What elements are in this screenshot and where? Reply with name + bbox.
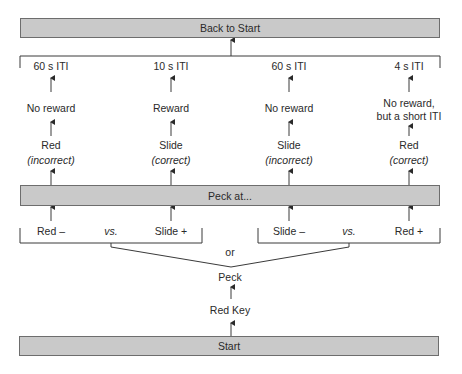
pair-2-vs: vs.	[342, 224, 355, 238]
start-label: Start	[218, 340, 240, 352]
column-2-outcome: Reward	[153, 101, 189, 115]
column-1-outcome: No reward	[27, 101, 75, 115]
or-label: or	[225, 245, 234, 259]
column-4-outcome: No reward,	[383, 96, 434, 110]
column-2-choice: Slide	[159, 138, 182, 152]
column-2-correctness: (correct)	[151, 153, 190, 167]
column-3-choice: Slide	[277, 138, 300, 152]
column-1-choice: Red	[41, 138, 60, 152]
column-3-iti: 60 s ITI	[271, 59, 306, 73]
column-3-outcome: No reward	[265, 101, 313, 115]
column-4-iti: 4 s ITI	[394, 59, 423, 73]
pair-2-right: Red +	[395, 224, 423, 238]
back-to-start-box: Back to Start	[20, 18, 440, 38]
pair-1-right: Slide +	[155, 224, 187, 238]
peck-label: Peck	[218, 270, 241, 284]
column-2-iti: 10 s ITI	[153, 59, 188, 73]
back-to-start-label: Back to Start	[200, 22, 260, 34]
pair-1-left: Red –	[37, 224, 65, 238]
column-4-choice: Red	[399, 138, 418, 152]
column-1-iti: 60 s ITI	[33, 59, 68, 73]
column-3-correctness: (incorrect)	[265, 153, 312, 167]
column-4-correctness: (correct)	[389, 153, 428, 167]
column-4-outcome-detail: but a short ITI	[377, 109, 442, 123]
red-key-label: Red Key	[210, 303, 250, 317]
column-1-correctness: (incorrect)	[27, 153, 74, 167]
peck-at-label: Peck at...	[208, 190, 252, 202]
pair-1-vs: vs.	[104, 224, 117, 238]
peck-at-box: Peck at...	[20, 185, 440, 206]
start-box: Start	[19, 336, 439, 356]
pair-2-left: Slide –	[273, 224, 305, 238]
